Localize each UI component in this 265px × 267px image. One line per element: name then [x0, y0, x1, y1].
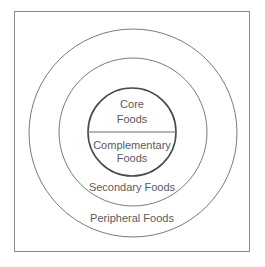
peripheral-foods-label: Peripheral Foods [90, 212, 174, 224]
food-layers-diagram: Core Foods Complementary Foods Secondary… [0, 0, 265, 267]
complementary-foods-label-line1: Complementary [93, 139, 171, 151]
complementary-foods-label-line2: Foods [117, 152, 148, 164]
secondary-foods-label: Secondary Foods [89, 181, 176, 193]
core-foods-label-line2: Foods [117, 113, 148, 125]
core-foods-label-line1: Core [120, 98, 144, 110]
